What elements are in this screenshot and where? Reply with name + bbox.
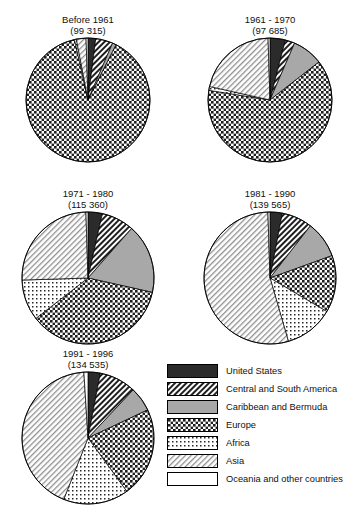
legend-label: Caribbean and Bermuda	[226, 402, 327, 413]
pie-title-count: (97 685)	[190, 25, 350, 36]
pie-svg	[206, 36, 334, 164]
legend-swatch-csa	[167, 382, 218, 396]
legend-swatch-asia	[167, 454, 218, 468]
chart-legend: United StatesCentral and South AmericaCa…	[167, 362, 353, 488]
pie-title-count: (115 360)	[8, 199, 168, 210]
legend-swatch-oceania	[167, 472, 218, 486]
pie-svg	[202, 210, 338, 346]
pie-chart-figure: Before 1961 (99 315) 1961 - 1970 (97 685…	[0, 0, 356, 521]
pie-title-period: Before 1961	[8, 14, 168, 25]
legend-swatch-africa	[167, 436, 218, 450]
pie-title-period: 1991 - 1996	[8, 348, 168, 359]
legend-swatch-us	[167, 364, 218, 378]
pie-chart-1971-1980: 1971 - 1980 (115 360)	[8, 188, 168, 346]
legend-swatch-carib	[167, 400, 218, 414]
pie-chart-before-1961: Before 1961 (99 315)	[8, 14, 168, 164]
legend-item: Oceania and other countries	[167, 470, 353, 488]
pie-title: Before 1961 (99 315)	[8, 14, 168, 36]
legend-swatch-europe	[167, 418, 218, 432]
pie-svg	[24, 36, 152, 164]
legend-label: United States	[226, 366, 282, 377]
legend-item: United States	[167, 362, 353, 380]
pie-chart-1991-1996: 1991 - 1996 (134 535)	[8, 348, 168, 506]
pie-svg	[20, 210, 156, 346]
pie-title-count: (99 315)	[8, 25, 168, 36]
legend-label: Oceania and other countries	[226, 474, 343, 485]
pie-title: 1961 - 1970 (97 685)	[190, 14, 350, 36]
pie-title-count: (134 535)	[8, 359, 168, 370]
legend-label: Europe	[226, 420, 256, 431]
pie-title: 1971 - 1980 (115 360)	[8, 188, 168, 210]
pie-title-period: 1981 - 1990	[190, 188, 350, 199]
legend-label: Asia	[226, 456, 244, 467]
pie-svg	[20, 370, 156, 506]
legend-item: Central and South America	[167, 380, 353, 398]
pie-title-count: (139 565)	[190, 199, 350, 210]
pie-title: 1981 - 1990 (139 565)	[190, 188, 350, 210]
pie-title-period: 1961 - 1970	[190, 14, 350, 25]
legend-item: Caribbean and Bermuda	[167, 398, 353, 416]
pie-title-period: 1971 - 1980	[8, 188, 168, 199]
pie-chart-1961-1970: 1961 - 1970 (97 685)	[190, 14, 350, 164]
legend-label: Central and South America	[226, 384, 337, 395]
legend-item: Asia	[167, 452, 353, 470]
pie-chart-1981-1990: 1981 - 1990 (139 565)	[190, 188, 350, 346]
legend-label: Africa	[226, 438, 250, 449]
pie-title: 1991 - 1996 (134 535)	[8, 348, 168, 370]
legend-item: Europe	[167, 416, 353, 434]
pie-slice-asia	[22, 212, 88, 280]
legend-item: Africa	[167, 434, 353, 452]
